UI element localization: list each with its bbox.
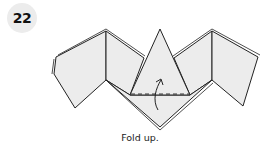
left-wing-outer bbox=[54, 31, 106, 108]
instruction-caption: Fold up. bbox=[0, 132, 280, 143]
origami-diagram bbox=[0, 0, 280, 153]
right-wing-outer bbox=[212, 31, 258, 106]
left-outer-edge-double bbox=[52, 59, 54, 74]
